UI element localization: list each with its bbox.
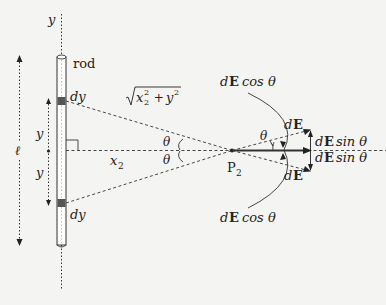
x2-subscript: 2 xyxy=(118,161,124,171)
y-upper-label: y xyxy=(35,126,44,141)
theta-arc-lower xyxy=(179,151,183,162)
dE-sin-upper-label: d E sin θ xyxy=(315,134,367,149)
dy-top-label: dy xyxy=(70,89,86,104)
dE-cos-bottom-label: d E cos θ xyxy=(220,210,276,225)
y-lower-arrow-head xyxy=(46,200,51,206)
svg-text:d: d xyxy=(315,134,323,149)
p2-label: P xyxy=(227,160,236,175)
svg-text:E: E xyxy=(324,150,334,165)
dE-cos-top-label: d E cos θ xyxy=(220,74,276,89)
svg-text:E: E xyxy=(293,168,303,183)
svg-text:cos θ: cos θ xyxy=(242,74,276,89)
svg-text:y: y xyxy=(165,90,174,105)
theta-field-label: θ xyxy=(260,129,268,143)
dy-element-bottom xyxy=(58,199,66,207)
y-upper-arrow-head xyxy=(46,98,51,104)
svg-text:2: 2 xyxy=(174,88,179,97)
svg-text:x: x xyxy=(136,90,144,105)
diagram-canvas: y rod dy dy ℓ y y x 2 x 2 2 + y 2 θ θ xyxy=(0,0,386,305)
svg-text:d: d xyxy=(284,168,292,183)
svg-text:d: d xyxy=(220,210,228,225)
right-angle-marker xyxy=(66,140,78,150)
theta-upper-label: θ xyxy=(163,135,171,149)
length-label: ℓ xyxy=(15,143,21,158)
rod-center-dot xyxy=(47,149,50,152)
rod-label: rod xyxy=(73,56,95,71)
svg-text:sin θ: sin θ xyxy=(336,134,367,149)
line-bottom-dy-to-p2 xyxy=(66,151,232,204)
svg-text:cos θ: cos θ xyxy=(242,210,276,225)
svg-text:E: E xyxy=(229,210,239,225)
p2-subscript: 2 xyxy=(236,168,242,178)
rod-field-diagram: y rod dy dy ℓ y y x 2 x 2 2 + y 2 θ θ xyxy=(0,0,386,305)
dE-lower-label: d E xyxy=(284,168,303,183)
cos-lower-arrow-head xyxy=(280,153,286,160)
svg-text:d: d xyxy=(284,117,292,132)
y-lower-label: y xyxy=(35,165,44,180)
svg-text:d: d xyxy=(315,150,323,165)
line-top-dy-to-p2 xyxy=(66,101,232,151)
svg-text:sin θ: sin θ xyxy=(336,150,367,165)
svg-text:E: E xyxy=(229,74,239,89)
hypotenuse-label: x 2 2 + y 2 xyxy=(126,87,181,107)
svg-text:2: 2 xyxy=(144,88,149,97)
y-axis-label: y xyxy=(47,12,56,27)
dE-upper-label: d E xyxy=(284,117,303,132)
dy-bottom-label: dy xyxy=(70,207,86,222)
svg-text:d: d xyxy=(220,74,228,89)
dy-element-top xyxy=(58,97,66,105)
rod-top-end xyxy=(57,55,66,59)
length-arrow-head-up xyxy=(17,55,23,62)
dE-upper-direction xyxy=(232,131,306,151)
svg-text:2: 2 xyxy=(144,98,149,107)
dE-sin-lower-label: d E sin θ xyxy=(315,150,367,165)
theta-lower-label: θ xyxy=(163,153,171,167)
svg-text:E: E xyxy=(324,134,334,149)
theta-arc-upper xyxy=(179,139,183,150)
svg-text:E: E xyxy=(293,117,303,132)
x2-label: x xyxy=(110,153,118,168)
length-arrow-head-down xyxy=(17,239,23,246)
